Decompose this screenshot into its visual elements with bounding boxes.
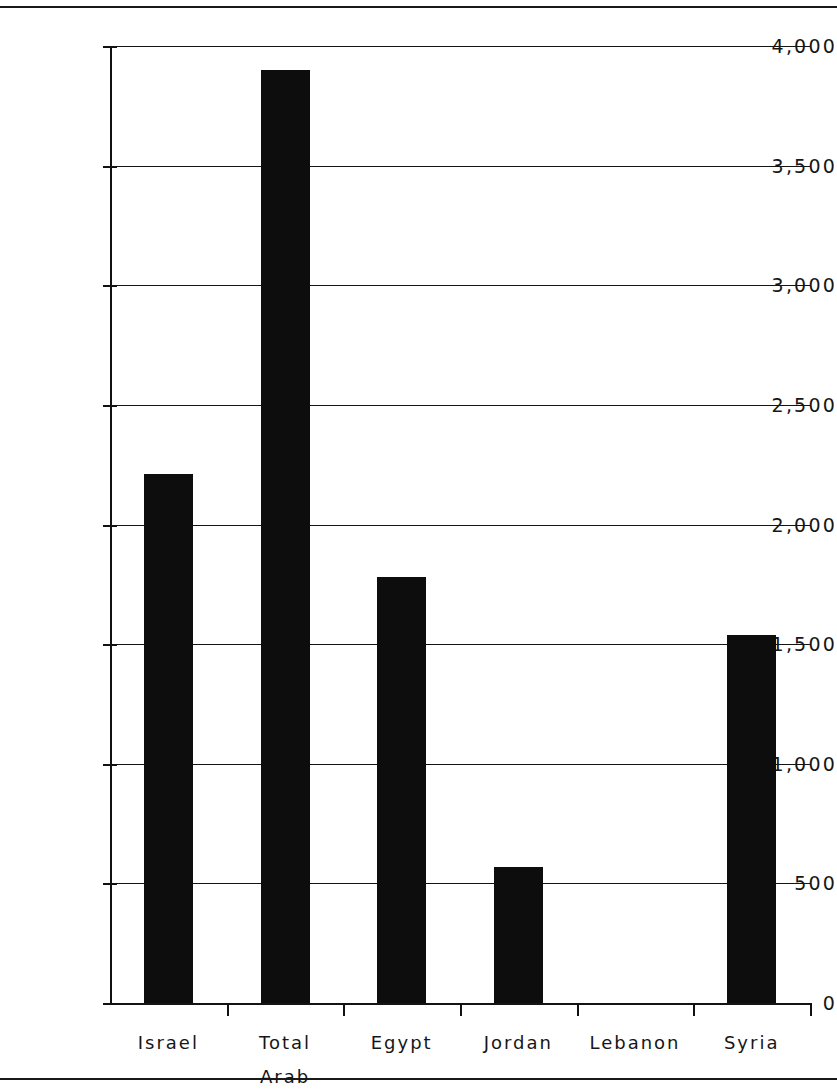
- y-axis-label: 3,000: [751, 274, 837, 296]
- y-axis-label: 2,500: [751, 394, 837, 416]
- x-tick: [577, 1003, 579, 1016]
- y-tick: [103, 764, 117, 766]
- y-tick: [103, 883, 117, 885]
- y-tick: [103, 1003, 117, 1005]
- gridline-4000: [110, 46, 810, 47]
- bar-egypt: [377, 577, 426, 1003]
- gridline-500: [110, 883, 810, 884]
- y-tick: [103, 644, 117, 646]
- x-axis-label-israel: Israel: [138, 1026, 199, 1060]
- x-tick: [693, 1003, 695, 1016]
- x-tick: [343, 1003, 345, 1016]
- y-tick: [103, 46, 117, 48]
- y-axis-label: 2,000: [751, 514, 837, 536]
- gridline-3000: [110, 285, 810, 286]
- bar-syria: [727, 635, 776, 1003]
- y-tick: [103, 166, 117, 168]
- y-axis-label: 4,000: [751, 35, 837, 57]
- y-tick: [103, 405, 117, 407]
- gridline-1500: [110, 644, 810, 645]
- x-axis-label-syria: Syria: [724, 1026, 780, 1060]
- bar-total-arab: [261, 70, 310, 1003]
- x-axis-label-jordan: Jordan: [484, 1026, 553, 1060]
- x-axis-label-lebanon: Lebanon: [589, 1026, 680, 1060]
- y-tick: [103, 525, 117, 527]
- gridline-3500: [110, 166, 810, 167]
- gridline-1000: [110, 764, 810, 765]
- y-axis-label: 3,500: [751, 155, 837, 177]
- bar-jordan: [494, 867, 543, 1003]
- gridline-2500: [110, 405, 810, 406]
- bar-israel: [144, 474, 193, 1003]
- x-axis-label-egypt: Egypt: [371, 1026, 433, 1060]
- x-tick: [460, 1003, 462, 1016]
- x-tick: [810, 1003, 812, 1016]
- y-tick: [103, 285, 117, 287]
- page-footer-spacer: [0, 1080, 837, 1092]
- gridline-2000: [110, 525, 810, 526]
- x-tick: [227, 1003, 229, 1016]
- bar-chart: 05001,0001,5002,0002,5003,0003,5004,000 …: [0, 0, 837, 1092]
